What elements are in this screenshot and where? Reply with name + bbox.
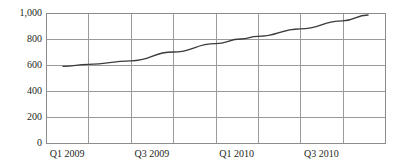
y-axis-tick-label: 800: [27, 34, 42, 44]
y-axis-tick-label: 400: [27, 86, 42, 96]
data-line: [63, 15, 368, 66]
x-axis-tick-label: Q1 2010: [197, 149, 277, 159]
y-axis-tick-label: 200: [27, 112, 42, 122]
data-series-group: [63, 15, 368, 66]
chart-canvas: [0, 0, 404, 166]
grid-lines: [46, 13, 385, 143]
y-axis-tick-label: 0: [37, 138, 42, 148]
x-axis-tick-label: Q1 2009: [27, 149, 107, 159]
y-axis-tick-label: 600: [27, 60, 42, 70]
x-axis-tick-label: Q3 2009: [112, 149, 192, 159]
line-chart: 02004006008001,000 Q1 2009Q3 2009Q1 2010…: [0, 0, 404, 166]
x-axis-tick-label: Q3 2010: [281, 149, 361, 159]
y-axis-tick-label: 1,000: [20, 8, 43, 18]
